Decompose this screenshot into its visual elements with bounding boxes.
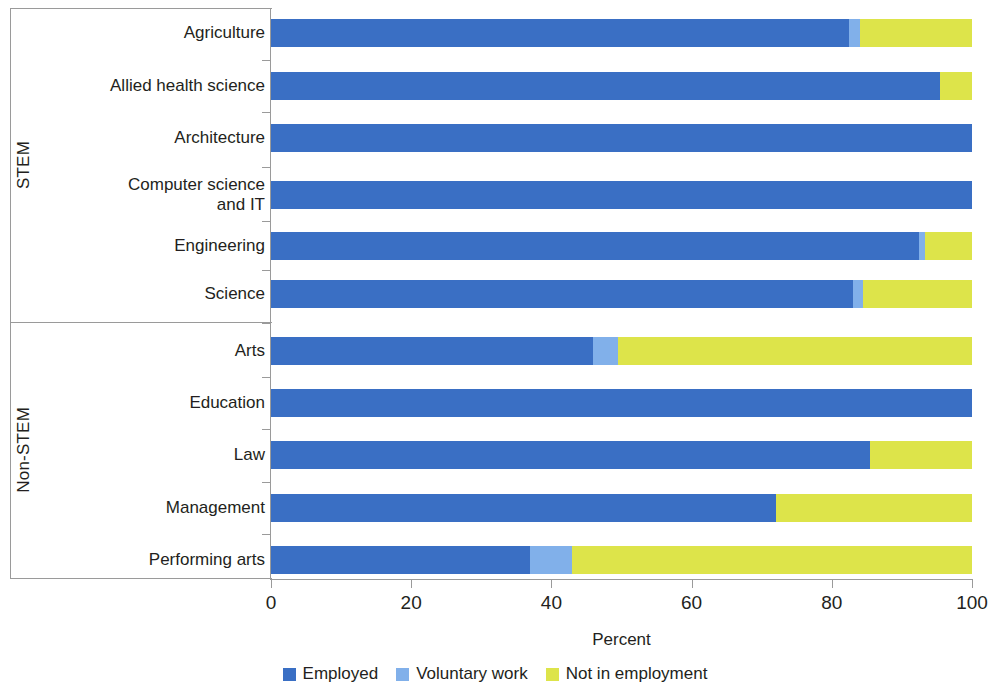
group-label-nonstem: Non-STEM — [14, 407, 34, 493]
bar-architecture — [271, 124, 972, 152]
bar-segment-voluntary-work — [853, 280, 864, 308]
legend-swatch-icon — [283, 668, 296, 681]
category-label-row: Allied health science — [40, 74, 265, 98]
bar-segment-employed — [271, 280, 853, 308]
category-tick — [262, 60, 271, 61]
category-label-row: Arts — [40, 339, 265, 363]
bar-segment-voluntary-work — [593, 337, 618, 365]
category-label-row: Architecture — [40, 126, 265, 150]
bar-science — [271, 280, 972, 308]
x-tick-label: 20 — [401, 592, 422, 614]
bar-segment-not-in-employment — [860, 19, 972, 47]
bar-law — [271, 441, 972, 469]
bar-management — [271, 494, 972, 522]
x-tick — [411, 579, 412, 588]
bar-segment-employed — [271, 181, 972, 209]
category-tick — [262, 482, 271, 483]
category-label: Agriculture — [184, 23, 265, 43]
bar-segment-employed — [271, 441, 870, 469]
x-tick — [692, 579, 693, 588]
x-tick-label: 0 — [266, 592, 277, 614]
bar-education — [271, 389, 972, 417]
category-tick — [262, 534, 271, 535]
category-tick — [262, 221, 271, 222]
category-label: Arts — [235, 341, 265, 361]
plot-area — [271, 8, 972, 579]
legend-item-not-in-employment: Not in employment — [546, 664, 708, 684]
frame-bottom-line — [10, 578, 272, 579]
bar-segment-not-in-employment — [776, 494, 972, 522]
stacked-bar-chart: STEM Non-STEM AgricultureAllied health s… — [0, 0, 990, 700]
legend-label: Voluntary work — [416, 664, 528, 684]
group-band-nonstem: Non-STEM — [10, 323, 38, 579]
category-tick — [262, 323, 271, 324]
bar-segment-employed — [271, 72, 940, 100]
category-tick — [262, 270, 271, 271]
bar-segment-employed — [271, 389, 972, 417]
bar-segment-not-in-employment — [618, 337, 972, 365]
bar-segment-employed — [271, 494, 776, 522]
category-label-column: AgricultureAllied health scienceArchitec… — [40, 8, 265, 578]
bar-allied-health-science — [271, 72, 972, 100]
category-tick — [262, 112, 271, 113]
group-axis: STEM Non-STEM — [10, 8, 38, 578]
bar-segment-employed — [271, 546, 530, 574]
legend-swatch-icon — [396, 668, 409, 681]
bar-segment-voluntary-work — [849, 19, 860, 47]
x-tick-label: 100 — [956, 592, 988, 614]
group-label-stem: STEM — [14, 141, 34, 189]
category-label-row: Agriculture — [40, 21, 265, 45]
x-tick — [271, 579, 272, 588]
chart-legend: EmployedVoluntary workNot in employment — [0, 664, 990, 684]
category-label: Allied health science — [110, 76, 265, 96]
category-label-row: Education — [40, 391, 265, 415]
category-label-row: Performing arts — [40, 548, 265, 572]
group-band-stem: STEM — [10, 8, 38, 323]
category-label-row: Law — [40, 443, 265, 467]
legend-swatch-icon — [546, 668, 559, 681]
category-label: Management — [166, 498, 265, 518]
legend-label: Not in employment — [566, 664, 708, 684]
bar-segment-not-in-employment — [870, 441, 972, 469]
category-tick — [262, 429, 271, 430]
bar-segment-not-in-employment — [572, 546, 972, 574]
legend-item-employed: Employed — [283, 664, 379, 684]
bar-agriculture — [271, 19, 972, 47]
category-label-row: Science — [40, 282, 265, 306]
x-tick-label: 40 — [541, 592, 562, 614]
x-tick-label: 60 — [681, 592, 702, 614]
category-label-row: Computer science and IT — [40, 173, 265, 217]
x-tick — [972, 579, 973, 588]
bar-segment-voluntary-work — [530, 546, 572, 574]
category-label: Architecture — [174, 128, 265, 148]
bar-segment-employed — [271, 124, 972, 152]
category-tick — [262, 167, 271, 168]
category-tick — [262, 377, 271, 378]
bar-arts — [271, 337, 972, 365]
bar-segment-not-in-employment — [925, 232, 972, 260]
category-label: Education — [189, 393, 265, 413]
x-axis-title: Percent — [271, 630, 972, 650]
legend-item-voluntary-work: Voluntary work — [396, 664, 528, 684]
bar-segment-not-in-employment — [940, 72, 972, 100]
bar-performing-arts — [271, 546, 972, 574]
x-tick-label: 80 — [821, 592, 842, 614]
x-tick — [832, 579, 833, 588]
bar-segment-employed — [271, 19, 849, 47]
bar-segment-employed — [271, 337, 593, 365]
bar-computer-science-and-it — [271, 181, 972, 209]
legend-label: Employed — [303, 664, 379, 684]
category-label: Engineering — [174, 236, 265, 256]
category-label: Performing arts — [149, 550, 265, 570]
bar-segment-not-in-employment — [863, 280, 972, 308]
category-label: Computer science and IT — [128, 175, 265, 214]
category-label: Law — [234, 445, 265, 465]
x-axis-line — [270, 579, 972, 580]
category-label-row: Engineering — [40, 234, 265, 258]
bar-engineering — [271, 232, 972, 260]
category-label: Science — [205, 284, 265, 304]
category-label-row: Management — [40, 496, 265, 520]
x-tick — [551, 579, 552, 588]
bar-segment-employed — [271, 232, 919, 260]
